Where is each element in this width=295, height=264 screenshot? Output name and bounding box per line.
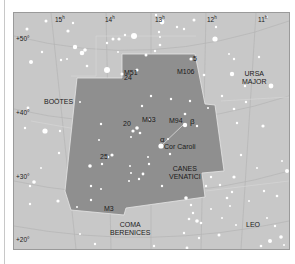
constellation-label-canes-venatici: CANES VENATICI	[169, 165, 201, 181]
constellation-label-leo: LEO	[246, 221, 260, 229]
label-beta: β	[190, 118, 195, 126]
canes-venatici-region	[65, 54, 224, 215]
constellation-label-bootes: BOÖTES	[44, 98, 73, 106]
label-m106: M106	[177, 68, 195, 76]
label-star-5: 5	[193, 55, 197, 63]
page-margin-line	[4, 0, 5, 264]
constellation-label-coma-berenices: COMA BERENICES	[110, 221, 150, 237]
label-star-20: 20	[123, 120, 131, 128]
label-star-25: 25	[100, 153, 108, 161]
ra-label-15h: 15h	[55, 16, 65, 23]
ra-label-14h: 14h	[105, 16, 115, 23]
star-chart-graphics	[14, 13, 289, 249]
label-cor-caroli: Cor Caroli	[164, 143, 196, 151]
dec-label-plus30: +30°	[16, 173, 30, 180]
label-m94: M94	[169, 117, 183, 125]
dec-label-plus50: +50°	[16, 35, 30, 42]
ra-label-13h: 13h	[155, 16, 165, 23]
star-chart: 15h 14h 13h 12h 11h +50° +40° +30° +20° …	[13, 12, 290, 250]
constellation-label-ursa-major: URSA MAJOR	[242, 70, 267, 86]
label-star-24: 24	[124, 74, 132, 82]
ra-label-11h: 11h	[258, 16, 267, 23]
label-m3: M3	[104, 205, 114, 213]
label-m63: M63	[142, 116, 156, 124]
dec-label-plus40: +40°	[16, 109, 30, 116]
ra-label-12h: 12h	[207, 16, 217, 23]
dec-label-plus20: +20°	[16, 236, 30, 243]
